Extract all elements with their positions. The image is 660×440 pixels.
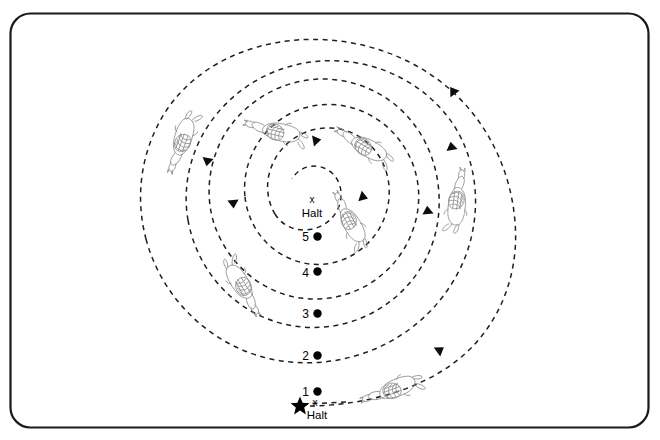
loop-marker-label: 2 bbox=[302, 349, 309, 363]
arena-border bbox=[11, 14, 649, 428]
loop-marker-label: 5 bbox=[302, 230, 309, 244]
loop-marker-dot bbox=[313, 309, 321, 317]
loop-marker-label: 4 bbox=[302, 266, 309, 280]
center-x-mark: x bbox=[310, 194, 315, 205]
loop-marker-dot bbox=[313, 387, 321, 395]
loop-marker-dot bbox=[313, 267, 321, 275]
loop-marker-dot bbox=[313, 351, 321, 359]
loop-marker-label: 1 bbox=[302, 385, 309, 399]
loop-marker-dot bbox=[313, 232, 321, 240]
diagram-canvas: x Halt 5 4 3 2 1 bbox=[0, 0, 660, 440]
start-halt-label: Halt bbox=[307, 409, 328, 421]
loop-marker-label: 3 bbox=[302, 307, 309, 321]
spiral-diagram: x Halt 5 4 3 2 1 bbox=[0, 0, 660, 440]
center-halt-label: Halt bbox=[302, 207, 323, 219]
start-x-mark: x bbox=[313, 397, 318, 408]
